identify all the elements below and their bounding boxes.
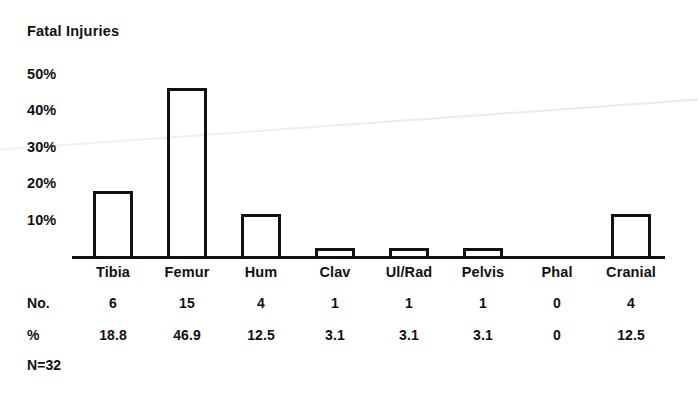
category-label-clav: Clav — [298, 264, 372, 280]
table-cell-percent-hum: 12.5 — [224, 327, 298, 343]
table-cell-percent-femur: 46.9 — [150, 327, 224, 343]
bar-tibia — [93, 191, 133, 259]
table-row-label-percent: % — [27, 327, 40, 343]
bar-femur — [167, 88, 207, 259]
table-cell-count-cranial: 4 — [594, 295, 668, 311]
table-cell-percent-clav: 3.1 — [298, 327, 372, 343]
table-cell-count-femur: 15 — [150, 295, 224, 311]
sample-size-annotation: N=32 — [27, 357, 61, 373]
category-label-tibia: Tibia — [76, 264, 150, 280]
bar-cranial — [611, 214, 651, 260]
table-cell-percent-ul-rad: 3.1 — [372, 327, 446, 343]
table-cell-count-pelvis: 1 — [446, 295, 520, 311]
category-label-phal: Phal — [520, 264, 594, 280]
table-cell-count-phal: 0 — [520, 295, 594, 311]
y-axis-tick-40: 40% — [27, 103, 73, 118]
category-label-femur: Femur — [150, 264, 224, 280]
category-label-cranial: Cranial — [594, 264, 668, 280]
category-label-ul-rad: Ul/Rad — [372, 264, 446, 280]
table-row-label-no: No. — [27, 295, 50, 311]
category-label-hum: Hum — [224, 264, 298, 280]
table-cell-count-clav: 1 — [298, 295, 372, 311]
table-cell-count-hum: 4 — [224, 295, 298, 311]
table-cell-percent-phal: 0 — [520, 327, 594, 343]
bar-hum — [241, 214, 281, 260]
chart-title: Fatal Injuries — [27, 23, 119, 39]
table-cell-percent-cranial: 12.5 — [594, 327, 668, 343]
y-axis-tick-50: 50% — [27, 67, 73, 82]
plot-area — [72, 56, 665, 259]
y-axis-tick-20: 20% — [27, 176, 73, 191]
y-axis-tick-10: 10% — [27, 213, 73, 228]
x-axis-baseline — [72, 256, 665, 259]
category-label-pelvis: Pelvis — [446, 264, 520, 280]
table-cell-percent-tibia: 18.8 — [76, 327, 150, 343]
table-cell-count-tibia: 6 — [76, 295, 150, 311]
table-cell-percent-pelvis: 3.1 — [446, 327, 520, 343]
y-axis-tick-30: 30% — [27, 140, 73, 155]
table-cell-count-ul-rad: 1 — [372, 295, 446, 311]
